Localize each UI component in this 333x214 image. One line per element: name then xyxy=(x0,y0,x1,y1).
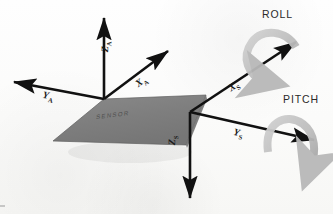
roll-rotation-arrow xyxy=(247,33,296,80)
scan-edge-artifact xyxy=(0,205,5,207)
diagram-canvas xyxy=(0,0,333,214)
pitch-rotation-arrow xyxy=(268,119,315,166)
sensor-plate xyxy=(53,95,206,145)
axis-line-x-a xyxy=(104,51,168,99)
axis-line-y-a xyxy=(14,82,104,99)
coordinate-frame-diagram: SENSOR ZA XA YA XS YS ZS ROLL PITCH xyxy=(0,0,333,214)
